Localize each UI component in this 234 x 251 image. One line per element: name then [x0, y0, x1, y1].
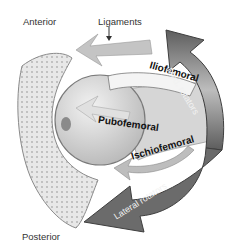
fovea — [61, 117, 71, 131]
ligaments-pointer-icon — [106, 27, 112, 41]
ligaments-label: Ligaments — [98, 16, 142, 27]
anterior-label: Anterior — [23, 16, 56, 27]
posterior-label: Posterior — [22, 231, 60, 242]
ligament-arrow-top — [76, 34, 152, 66]
